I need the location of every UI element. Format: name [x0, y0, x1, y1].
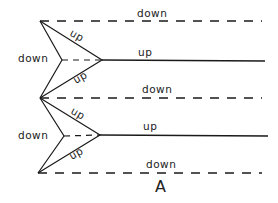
label-lower-solid-up: up: [143, 121, 157, 132]
lower-inner-dashed: [64, 135, 100, 136]
label-upper-solid-up: up: [138, 47, 152, 58]
label-bottom-down: down: [146, 159, 176, 170]
lower-solid-line: [100, 135, 268, 136]
branching-diagram: [0, 0, 278, 203]
label-top-down: down: [137, 8, 167, 19]
figure-caption: A: [155, 179, 166, 195]
label-middle-down: down: [142, 84, 172, 95]
label-lower-left-down: down: [18, 130, 48, 141]
label-upper-left-down: down: [18, 53, 48, 64]
upper-solid-line: [102, 60, 265, 61]
